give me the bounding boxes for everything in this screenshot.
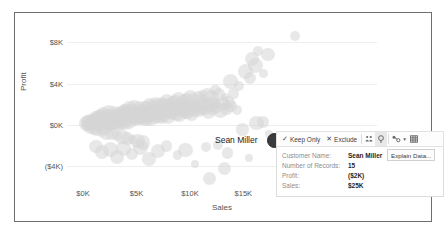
check-icon: ✓ bbox=[282, 135, 288, 143]
mark-tooltip: ✓ Keep Only ✕ Exclude bbox=[276, 131, 444, 197]
tooltip-row: Number of Records:15 bbox=[282, 161, 438, 170]
group-members-button[interactable] bbox=[363, 132, 375, 146]
screenshot-root: $8K$4K$0K($4K) Profit $0K$5K$10K$15K$20K… bbox=[0, 0, 447, 233]
data-point[interactable] bbox=[178, 143, 192, 157]
tooltip-row-key: Customer Name: bbox=[282, 151, 348, 160]
x-tick-label: $0K bbox=[76, 189, 89, 198]
data-point[interactable] bbox=[201, 142, 211, 152]
exclude-label: Exclude bbox=[334, 136, 357, 143]
data-point[interactable] bbox=[259, 69, 269, 79]
tooltip-row-key: Number of Records: bbox=[282, 161, 348, 170]
group-members-icon bbox=[365, 135, 373, 143]
y-axis: $8K$4K$0K($4K) bbox=[15, 27, 63, 187]
tooltip-row-key: Sales: bbox=[282, 181, 348, 190]
x-tick-label: $15K bbox=[235, 189, 253, 198]
group-by-icon bbox=[392, 135, 401, 143]
tooltip-row-value: 15 bbox=[348, 161, 355, 170]
tooltip-row-value: $25K bbox=[348, 181, 364, 190]
keep-only-button[interactable]: ✓ Keep Only bbox=[279, 132, 323, 146]
toolbar-divider-2 bbox=[388, 134, 389, 144]
data-point[interactable] bbox=[161, 140, 173, 152]
y-tick-label: $4K bbox=[50, 79, 63, 88]
tooltip-row-value: Sean Miller bbox=[348, 151, 382, 160]
group-by-button[interactable]: ▾ bbox=[390, 132, 408, 146]
y-tick-label: $0K bbox=[50, 121, 63, 130]
tooltip-row-value: ($2K) bbox=[348, 171, 364, 180]
view-data-icon bbox=[410, 135, 418, 143]
explain-data-button[interactable]: Explain Data... bbox=[387, 149, 435, 161]
gridline bbox=[67, 84, 377, 85]
x-tick-label: $10K bbox=[181, 189, 199, 198]
tooltip-row: Sales:$25K bbox=[282, 181, 438, 190]
x-axis-title: Sales bbox=[67, 203, 377, 212]
exclude-button[interactable]: ✕ Exclude bbox=[323, 132, 360, 146]
data-point[interactable] bbox=[261, 48, 274, 61]
describe-mark-icon bbox=[377, 135, 385, 144]
tooltip-row-key: Profit: bbox=[282, 171, 348, 180]
data-point[interactable] bbox=[257, 116, 269, 128]
data-point[interactable] bbox=[244, 72, 256, 84]
keep-only-label: Keep Only bbox=[290, 136, 320, 143]
toolbar-divider bbox=[361, 134, 362, 144]
close-icon: ✕ bbox=[326, 135, 332, 143]
data-point[interactable] bbox=[245, 154, 253, 162]
data-point[interactable] bbox=[203, 172, 216, 185]
gridline bbox=[67, 42, 377, 43]
y-tick-label: $8K bbox=[50, 38, 63, 47]
tooltip-body: Explain Data... Customer Name:Sean Mille… bbox=[276, 147, 444, 197]
y-axis-title: Profit bbox=[19, 72, 28, 91]
selected-mark-label: Sean Miller bbox=[215, 135, 258, 145]
data-point[interactable] bbox=[232, 105, 242, 115]
describe-mark-button[interactable] bbox=[375, 132, 387, 146]
data-point[interactable] bbox=[210, 85, 220, 95]
viz-window: $8K$4K$0K($4K) Profit $0K$5K$10K$15K$20K… bbox=[14, 12, 432, 222]
tooltip-row: Profit:($2K) bbox=[282, 171, 438, 180]
view-data-button[interactable] bbox=[408, 132, 420, 146]
tooltip-toolbar: ✓ Keep Only ✕ Exclude bbox=[276, 131, 444, 147]
data-point[interactable] bbox=[218, 162, 231, 175]
data-point[interactable] bbox=[222, 147, 233, 158]
chevron-down-icon: ▾ bbox=[403, 136, 406, 142]
y-tick-label: ($4K) bbox=[45, 162, 63, 171]
data-point[interactable] bbox=[290, 31, 300, 41]
data-point[interactable] bbox=[236, 123, 249, 136]
data-point[interactable] bbox=[234, 81, 245, 92]
x-tick-label: $5K bbox=[130, 189, 143, 198]
